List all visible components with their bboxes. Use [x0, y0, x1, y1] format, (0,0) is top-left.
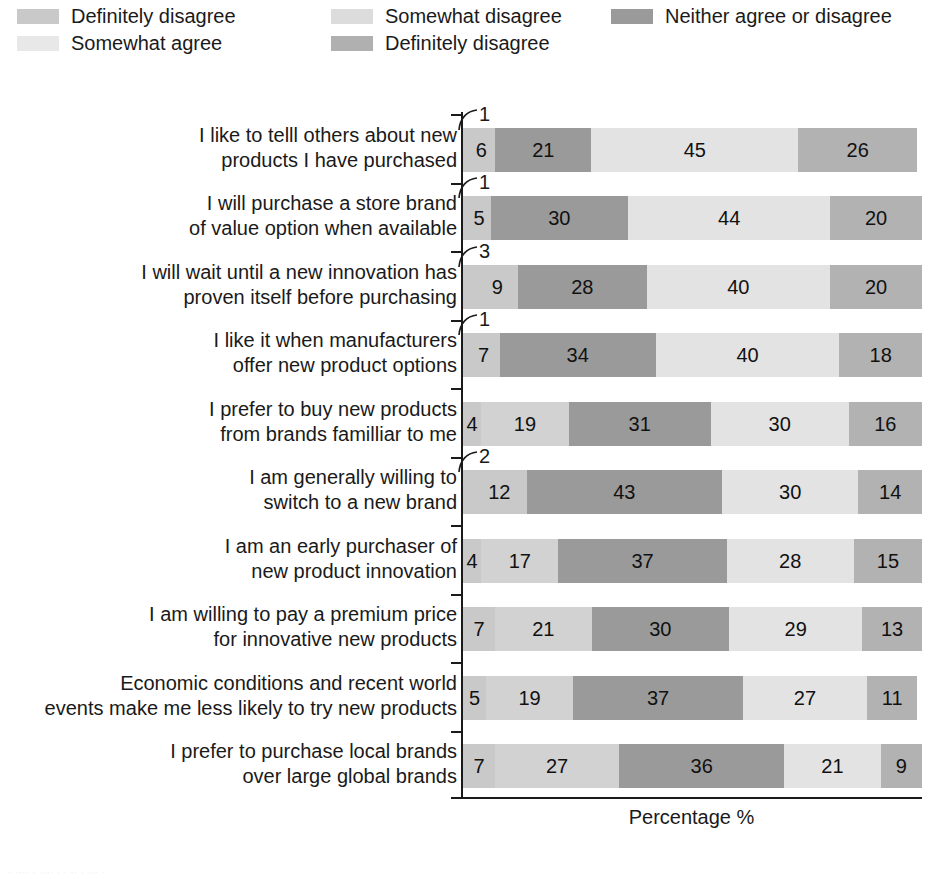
- segment-value-label: 29: [785, 618, 807, 641]
- category-label-line1: Economic conditions and recent world: [27, 671, 457, 696]
- bar-segment[interactable]: 29: [729, 607, 862, 651]
- bar-segment[interactable]: 37: [573, 676, 743, 720]
- category-label-line1: I prefer to buy new products: [27, 397, 457, 422]
- bar-segment[interactable]: 30: [491, 196, 629, 240]
- axis-tick-4: [451, 388, 462, 390]
- bar-segment[interactable]: 5: [463, 676, 486, 720]
- stacked-bar[interactable]: 417372815: [463, 539, 922, 583]
- category-label-line1: I am an early purchaser of: [27, 534, 457, 559]
- bar-segment[interactable]: 28: [518, 265, 647, 309]
- bar-segment[interactable]: 14: [858, 470, 922, 514]
- bar-segment[interactable]: 16: [849, 402, 922, 446]
- bar-segment[interactable]: 15: [854, 539, 922, 583]
- segment-value-label: 9: [492, 276, 503, 299]
- bar-segment[interactable]: 7: [463, 744, 495, 788]
- bar-segment[interactable]: 21: [495, 128, 591, 172]
- segment-value-label: 40: [736, 344, 758, 367]
- stacked-bar[interactable]: 6214526: [463, 128, 922, 172]
- bar-segment[interactable]: 9: [477, 265, 518, 309]
- bar-segment[interactable]: 17: [481, 539, 558, 583]
- bar-segment[interactable]: 7: [463, 607, 495, 651]
- axis-tick-8: [451, 662, 462, 664]
- stacked-bar[interactable]: 519372711: [463, 676, 922, 720]
- segment-value-label: 20: [865, 207, 887, 230]
- segment-value-label: 12: [488, 481, 510, 504]
- axis-tick-10: [451, 797, 462, 799]
- category-label-line2: switch to a new brand: [27, 490, 457, 515]
- callout-value-label: 1: [479, 104, 490, 124]
- bar-segment[interactable]: 45: [591, 128, 798, 172]
- segment-value-label: 28: [571, 276, 593, 299]
- segment-value-label: 19: [518, 687, 540, 710]
- bar-segment[interactable]: 21: [495, 607, 591, 651]
- bar-segment[interactable]: 19: [486, 676, 573, 720]
- category-label-6: I am an early purchaser ofnew product in…: [27, 534, 457, 584]
- stacked-bar[interactable]: 12433014: [463, 470, 922, 514]
- bar-segment[interactable]: 6: [468, 128, 496, 172]
- stacked-bar[interactable]: 9284020: [463, 265, 922, 309]
- segment-value-label: 37: [631, 550, 653, 573]
- category-label-line2: over large global brands: [27, 764, 457, 789]
- category-label-line1: I like it when manufacturers: [27, 328, 457, 353]
- bar-segment[interactable]: 26: [798, 128, 917, 172]
- segment-value-label: 7: [474, 618, 485, 641]
- category-label-line1: I am willing to pay a premium price: [27, 602, 457, 627]
- stacked-bar[interactable]: 7344018: [463, 333, 922, 377]
- segment-value-label: 4: [467, 550, 478, 573]
- segment-value-label: 7: [474, 755, 485, 778]
- bar-segment[interactable]: 31: [569, 402, 711, 446]
- segment-value-label: 17: [509, 550, 531, 573]
- stacked-bar[interactable]: 72736219: [463, 744, 922, 788]
- bar-segment[interactable]: 20: [830, 196, 922, 240]
- bar-segment[interactable]: 18: [839, 333, 922, 377]
- bar-segment[interactable]: [463, 265, 477, 309]
- stacked-bar[interactable]: 5304420: [463, 196, 922, 240]
- category-label-5: I am generally willing toswitch to a new…: [27, 465, 457, 515]
- stacked-bar[interactable]: 721302913: [463, 607, 922, 651]
- bar-segment[interactable]: 43: [527, 470, 722, 514]
- bar-segment[interactable]: 5: [468, 196, 491, 240]
- bar-segment[interactable]: 11: [867, 676, 917, 720]
- chart-row: I like to telll others about newproducts…: [0, 128, 945, 196]
- category-label-line2: offer new product options: [27, 353, 457, 378]
- bar-segment[interactable]: 30: [592, 607, 730, 651]
- bar-segment[interactable]: 36: [619, 744, 784, 788]
- axis-tick-6: [451, 525, 462, 527]
- bar-segment[interactable]: 44: [628, 196, 830, 240]
- axis-tick-7: [451, 594, 462, 596]
- bar-segment[interactable]: 30: [722, 470, 858, 514]
- segment-value-label: 27: [546, 755, 568, 778]
- bar-segment[interactable]: 28: [727, 539, 854, 583]
- segment-value-label: 36: [691, 755, 713, 778]
- category-label-line1: I prefer to purchase local brands: [27, 739, 457, 764]
- category-label-line2: events make me less likely to try new pr…: [27, 696, 457, 721]
- bar-segment[interactable]: [917, 128, 922, 172]
- bar-segment[interactable]: 12: [472, 470, 527, 514]
- bar-segment[interactable]: [463, 470, 472, 514]
- bar-segment[interactable]: 40: [656, 333, 840, 377]
- stacked-bar[interactable]: 419313016: [463, 402, 922, 446]
- bar-segment[interactable]: 21: [784, 744, 880, 788]
- bar-segment[interactable]: 20: [830, 265, 922, 309]
- segment-value-label: 21: [532, 139, 554, 162]
- bar-segment[interactable]: 4: [463, 402, 481, 446]
- bar-segment[interactable]: 7: [468, 333, 500, 377]
- bar-segment[interactable]: 37: [558, 539, 726, 583]
- bar-segment[interactable]: 40: [647, 265, 831, 309]
- bar-segment[interactable]: 13: [862, 607, 922, 651]
- bar-segment[interactable]: 27: [495, 744, 619, 788]
- bar-segment[interactable]: 19: [481, 402, 568, 446]
- category-label-4: I prefer to buy new productsfrom brands …: [27, 397, 457, 447]
- bar-segment[interactable]: 30: [711, 402, 849, 446]
- segment-value-label: 20: [865, 276, 887, 299]
- bar-segment[interactable]: 4: [463, 539, 481, 583]
- segment-value-label: 11: [882, 687, 903, 710]
- segment-value-label: 30: [548, 207, 570, 230]
- bar-segment[interactable]: 34: [500, 333, 656, 377]
- category-label-line2: of value option when available: [27, 216, 457, 241]
- segment-value-label: 27: [794, 687, 816, 710]
- segment-value-label: 6: [476, 139, 487, 162]
- category-label-line2: proven itself before purchasing: [27, 285, 457, 310]
- bar-segment[interactable]: 9: [881, 744, 922, 788]
- bar-segment[interactable]: 27: [743, 676, 867, 720]
